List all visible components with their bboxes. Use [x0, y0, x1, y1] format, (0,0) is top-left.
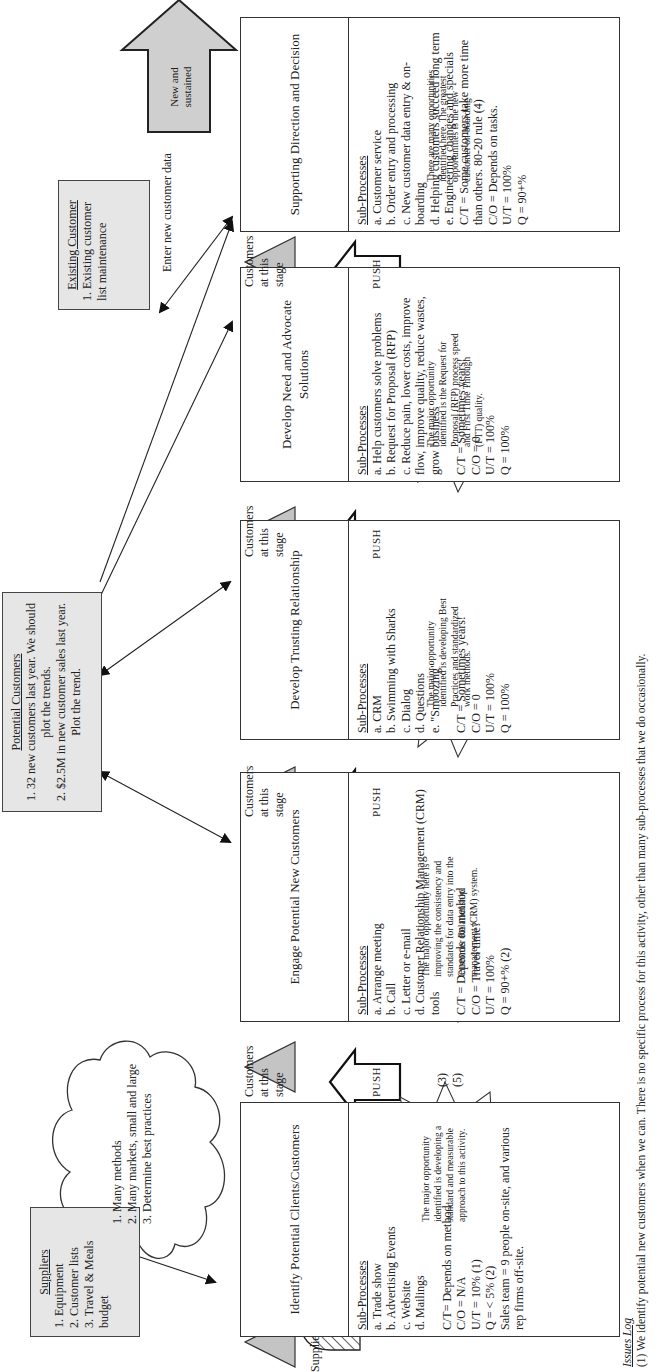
potential-customers-box: Potential Customers 1. 32 new customers … — [2, 592, 102, 812]
stage-label-3: Customersat thisstage — [242, 487, 287, 557]
subprocess-title: Sub-Processes — [355, 1109, 370, 1330]
potential-customers-title: Potential Customers — [9, 601, 24, 803]
stage-label-1: Customersat thisstage — [242, 1027, 287, 1097]
subprocess-item: a. Help customers solve problems — [370, 274, 385, 475]
existing-customer-title: Existing Customer — [65, 189, 80, 301]
suppliers-title: Suppliers — [37, 1216, 52, 1328]
burst-text-1: The major opportunity identified is deve… — [420, 1117, 468, 1222]
metric-q: Q = < 5% (2) — [483, 1109, 498, 1330]
suppliers-item: 2. Customer lists — [67, 1216, 82, 1328]
issues-log-item: (1) We identify potential new customers … — [634, 367, 648, 1367]
enter-data-label: Enter new customer data — [160, 102, 175, 272]
metric-q: Q = 90+% — [515, 24, 530, 225]
burst-text-3: The major opportunity identified is deve… — [425, 592, 473, 707]
push-label: PUSH — [370, 256, 382, 292]
issues-log-title: Issues Log — [620, 367, 634, 1367]
subprocess-title: Sub-Processes — [355, 274, 370, 475]
metric-q: Q = 100% — [498, 274, 513, 475]
value-stream-map: Suppliers 1. Equipment 2. Customer lists… — [0, 0, 661, 1372]
subprocess-title: Sub-Processes — [355, 779, 370, 1015]
subprocess-item: b. Call — [384, 779, 399, 1015]
potential-customers-item: 2. $2.5M in new customer sales last year… — [54, 601, 84, 803]
stage-notes: (3)(5) — [435, 1047, 465, 1087]
burst-text-2: The major opportunity here is improving … — [420, 847, 480, 977]
burst-text-5: There are many opportunities identified … — [425, 67, 473, 182]
burst-text-4: The major opportunity identified is the … — [425, 332, 485, 447]
subprocess-item: a. Customer service — [370, 24, 385, 225]
process-title: Identify Potential Clients/Customers — [241, 1103, 349, 1336]
existing-customer-box: Existing Customer 1. Existing customer l… — [58, 180, 150, 310]
process-title: Supporting Direction and Decision — [241, 18, 349, 231]
subprocess-item: c. New customer data entry & on-boarding — [399, 24, 428, 225]
issues-log: Issues Log (1) We identify potential new… — [620, 367, 648, 1367]
existing-customer-item: 1. Existing customer list maintenance — [80, 189, 110, 301]
suppliers-item: 1. Equipment — [52, 1216, 67, 1328]
stage-label-2: Customersat thisstage — [242, 747, 287, 817]
cloud-item: 2. Many markets, small and large — [125, 1054, 140, 1224]
subprocess-title: Sub-Processes — [355, 24, 370, 225]
output-arrow-label: New and sustained — [168, 47, 194, 127]
subprocess-item: c. Dialog — [399, 527, 414, 733]
potential-customers-item: 1. 32 new customers last year. We should… — [24, 601, 54, 803]
metric-ut: U/T = 100% — [483, 274, 498, 475]
suppliers-box: Suppliers 1. Equipment 2. Customer lists… — [30, 1207, 140, 1337]
subprocess-item: b. Request for Proposal (RFP) — [384, 274, 399, 475]
subprocess-title: Sub-Processes — [355, 527, 370, 733]
metric-q: Q = 100% — [498, 527, 513, 733]
subprocess-item: a. Trade show — [370, 1109, 385, 1330]
metric-staff: Sales team = 9 people on-site, and vario… — [498, 1109, 527, 1330]
metric-ut: U/T = 100% — [483, 527, 498, 733]
cloud-item: 1. Many methods — [110, 1054, 125, 1224]
subprocess-item: b. Swimming with Sharks — [384, 527, 399, 733]
metric-ut: U/T = 100% — [500, 24, 515, 225]
push-label: PUSH — [370, 526, 382, 562]
subprocess-item: c. Letter or e-mail — [399, 779, 414, 1015]
cloud-item: 3. Determine best practices — [140, 1054, 155, 1224]
stage-label-4: Customersat thisstage — [242, 217, 287, 287]
metric-ut: U/T = 100% — [483, 779, 498, 1015]
subprocess-item: c. Website — [399, 1109, 414, 1330]
metric-ut: U/T = 10% (1) — [469, 1109, 484, 1330]
process-title: Develop Need and Advocate Solutions — [241, 268, 349, 481]
suppliers-item: 3. Travel & Meals budget — [82, 1216, 112, 1328]
subprocess-item: b. Advertising Events — [384, 1109, 399, 1330]
push-label: PUSH — [370, 784, 382, 820]
subprocess-item: b. Order entry and processing — [384, 24, 399, 225]
push-label: PUSH — [370, 1064, 382, 1100]
cloud-notes: 1. Many methods 2. Many markets, small a… — [110, 1054, 155, 1224]
metric-q: Q = 90+% (2) — [498, 779, 513, 1015]
metric-co: C/O = Depends on tasks. — [486, 24, 501, 225]
